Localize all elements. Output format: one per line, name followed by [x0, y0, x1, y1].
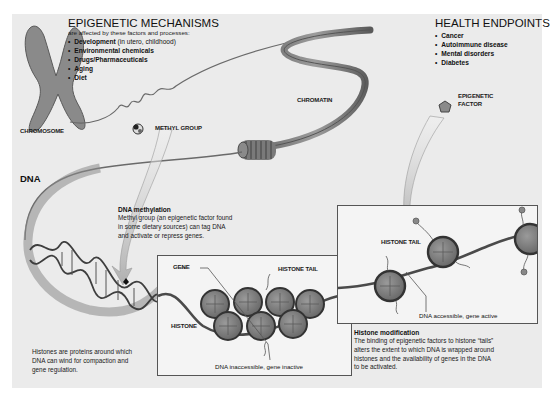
- histone-tail-label-left: HISTONE TAIL: [278, 266, 318, 272]
- gene-label: GENE: [173, 264, 190, 270]
- epigenetic-mechanisms-title: EPIGENETIC MECHANISMS: [68, 17, 219, 29]
- chromatin-label: CHROMATIN: [297, 97, 332, 103]
- dna-inaccessible-panel: GENE HISTONE TAIL HISTONE DNA inaccessib…: [157, 255, 352, 376]
- histone-tail-pointer: [266, 274, 270, 290]
- epigenetic-mechanisms-block: EPIGENETIC MECHANISMS are affected by th…: [68, 17, 219, 82]
- factor-item: Aging: [68, 64, 219, 73]
- factor-item: Environmental chemicals: [68, 46, 219, 55]
- dna-double-helix: [30, 242, 160, 309]
- epigenetic-mechanisms-subtitle: are affected by these factors and proces…: [68, 29, 219, 37]
- health-endpoints-title: HEALTH ENDPOINTS: [435, 17, 550, 29]
- epigenetic-factor-icon: [439, 101, 451, 112]
- dna-accessible-panel: HISTONE TAIL DNA accessible, gene active: [337, 205, 538, 324]
- health-endpoints-list: Cancer Autoimmune disease Mental disorde…: [435, 31, 550, 67]
- dna-methylation-title: DNA methylation: [118, 205, 232, 214]
- endpoint-item: Diabetes: [435, 58, 550, 67]
- dna-methylation-caption: DNA methylation Methyl group (an epigene…: [118, 205, 232, 240]
- factor-item: Development (in utero, childhood): [68, 37, 219, 46]
- health-endpoints-block: HEALTH ENDPOINTS Cancer Autoimmune disea…: [435, 17, 550, 67]
- histone-label: HISTONE: [171, 323, 197, 329]
- dna-inaccessible-label: DNA inaccessible, gene inactive: [215, 363, 303, 370]
- open-chromatin: [338, 206, 537, 323]
- dna-label: DNA: [20, 173, 41, 184]
- histone-tail-pointer-right: [386, 256, 388, 271]
- histone-modification-title: Histone modification: [354, 328, 494, 337]
- dna-accessible-label: DNA accessible, gene active: [419, 312, 497, 319]
- endpoint-item: Autoimmune disease: [435, 40, 550, 49]
- methyl-group-label: METHYL GROUP: [155, 125, 202, 131]
- factor-item: Drugs/Pharmaceuticals: [68, 55, 219, 64]
- histone-modification-caption: Histone modification The binding of epig…: [354, 328, 494, 372]
- histone-tail-label-right: HISTONE TAIL: [381, 239, 421, 245]
- endpoint-item: Mental disorders: [435, 49, 550, 58]
- methyl-group-icon: [133, 124, 143, 134]
- epigenetic-factor-label: EPIGENETIC FACTOR: [458, 92, 493, 108]
- factor-item: Diet: [68, 73, 219, 82]
- chromosome-label: CHROMOSOME: [20, 128, 64, 134]
- chromatin-coil: [238, 140, 276, 160]
- histone-cluster: [158, 256, 351, 375]
- endpoint-item: Cancer: [435, 31, 550, 40]
- mechanism-factors-list: Development (in utero, childhood) Enviro…: [68, 37, 219, 82]
- histones-caption: Histones are proteins around which DNA c…: [32, 348, 132, 374]
- epigenetic-factor-tags: [413, 207, 527, 275]
- chromatin-loop: [260, 30, 370, 148]
